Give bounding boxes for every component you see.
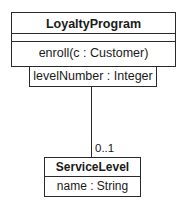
class-name-loyaltyprogram: LoyaltyProgram [12, 17, 175, 31]
operation-enroll: enroll(c : Customer) [12, 46, 175, 60]
qualifier-box[interactable]: levelNumber : Integer [29, 66, 157, 87]
attribute-name: name : String [45, 179, 140, 193]
multiplicity-label: 0..1 [95, 142, 114, 154]
class-header-divider [12, 33, 175, 34]
class-loyaltyprogram[interactable]: LoyaltyProgram enroll(c : Customer) [11, 12, 176, 67]
class-header-divider [45, 176, 140, 177]
attributes-divider [12, 41, 175, 42]
class-name-servicelevel: ServiceLevel [45, 160, 140, 174]
class-servicelevel[interactable]: ServiceLevel name : String [44, 157, 141, 197]
association-line[interactable] [91, 86, 92, 157]
qualifier-levelnumber: levelNumber : Integer [30, 69, 156, 83]
